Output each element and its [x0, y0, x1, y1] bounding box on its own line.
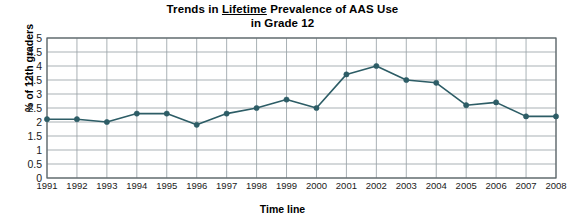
- data-point-marker: [494, 100, 499, 105]
- data-point-marker: [344, 72, 349, 77]
- data-point-marker: [194, 122, 199, 127]
- data-point-marker: [374, 63, 379, 68]
- data-series-line: [47, 66, 556, 125]
- data-point-marker: [523, 114, 528, 119]
- data-point-marker: [284, 97, 289, 102]
- data-point-marker: [434, 80, 439, 85]
- data-point-marker: [404, 77, 409, 82]
- data-point-marker: [224, 111, 229, 116]
- data-point-marker: [254, 105, 259, 110]
- data-point-marker: [74, 117, 79, 122]
- data-point-marker: [464, 103, 469, 108]
- data-point-marker: [553, 114, 558, 119]
- data-point-marker: [104, 119, 109, 124]
- data-point-marker: [164, 111, 169, 116]
- data-point-marker: [314, 105, 319, 110]
- data-point-marker: [44, 117, 49, 122]
- data-point-marker: [134, 111, 139, 116]
